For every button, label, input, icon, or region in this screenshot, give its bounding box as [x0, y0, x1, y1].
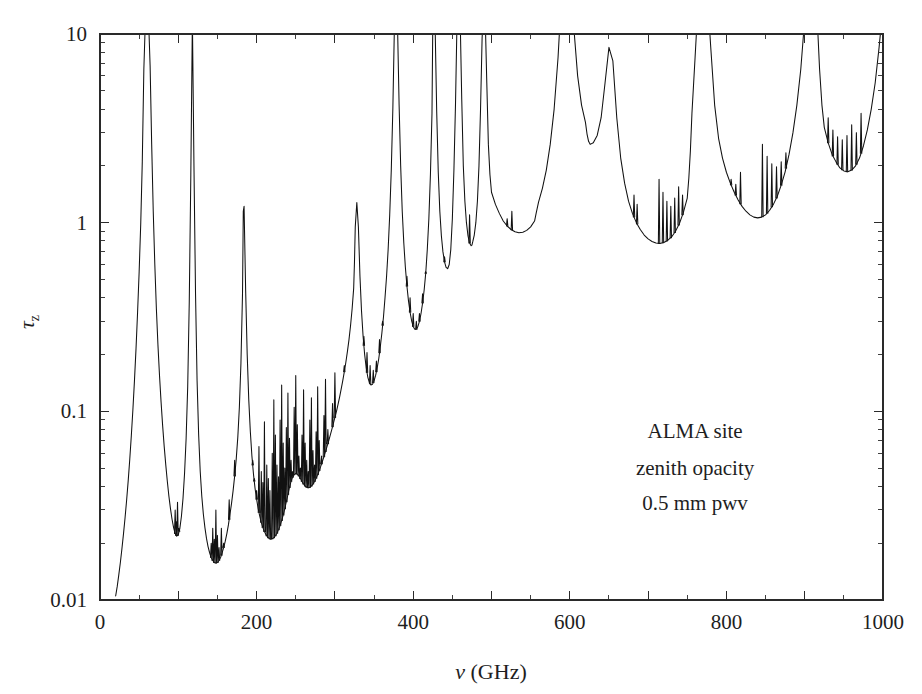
- x-tick-labels: 02004006008001000: [95, 610, 904, 634]
- opacity-chart-svg: 02004006008001000 0.010.1110 ν (GHz) τz …: [0, 0, 922, 694]
- chart-annotation-line-1: ALMA site: [648, 419, 743, 443]
- plot-frame: [100, 34, 883, 600]
- x-tick-label: 600: [554, 610, 586, 634]
- x-axis-title: ν (GHz): [455, 659, 526, 684]
- chart-annotation-line-3: 0.5 mm pwv: [642, 491, 748, 515]
- y-tick-label: 0.01: [50, 588, 87, 612]
- y-tick-label: 1: [77, 211, 88, 235]
- curve-layer: [116, 0, 883, 596]
- y-tick-labels: 0.010.1110: [50, 22, 87, 612]
- y-tick-label: 10: [66, 22, 87, 46]
- axis-ticks: [100, 34, 883, 600]
- absorption-line-spikes: [174, 113, 861, 563]
- x-tick-label: 200: [241, 610, 273, 634]
- x-axis-title-text: ν (GHz): [455, 659, 526, 684]
- chart-annotation-line-2: zenith opacity: [636, 456, 755, 480]
- x-tick-label: 1000: [862, 610, 904, 634]
- opacity-curve: [116, 0, 883, 596]
- y-axis-title: τz: [14, 315, 42, 329]
- x-tick-label: 800: [711, 610, 743, 634]
- y-axis-title-text: τz: [14, 315, 42, 329]
- annotation-block: ALMA sitezenith opacity0.5 mm pwv: [636, 419, 755, 515]
- x-tick-label: 0: [95, 610, 106, 634]
- x-tick-label: 400: [397, 610, 429, 634]
- chart-figure: 02004006008001000 0.010.1110 ν (GHz) τz …: [0, 0, 922, 694]
- y-tick-label: 0.1: [61, 399, 87, 423]
